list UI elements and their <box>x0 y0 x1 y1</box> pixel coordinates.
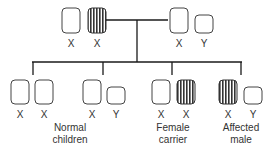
caption-line: carrier <box>143 134 203 146</box>
mother-x-normal <box>62 8 80 33</box>
child-daughter-normal <box>11 80 53 104</box>
child-son-normal <box>83 80 125 104</box>
child-daughter-carrier <box>152 80 195 104</box>
caption-line: children <box>40 134 100 146</box>
caption-female-carrier: Female carrier <box>143 122 203 146</box>
chromosome-label: X <box>177 109 195 120</box>
chromosome-label: Y <box>244 109 262 120</box>
caption-line: Affected <box>211 122 270 134</box>
father-chromosomes <box>170 8 213 33</box>
mother-x-affected <box>88 8 106 33</box>
caption-affected-male: Affected male <box>211 122 270 146</box>
caption-line: Female <box>143 122 203 134</box>
caption-line: Normal <box>40 122 100 134</box>
chromosome-label: X <box>83 109 101 120</box>
chromosome-label: Y <box>107 109 125 120</box>
chromosome-label: X <box>62 38 80 49</box>
chromosome-label: Y <box>195 38 213 49</box>
father-x <box>170 8 188 33</box>
caption-normal-children: Normal children <box>40 122 100 146</box>
chromosome-label: X <box>88 38 106 49</box>
chromosome-label: X <box>219 109 237 120</box>
child-son-affected <box>219 80 262 104</box>
father-y <box>195 15 213 33</box>
mother-chromosomes <box>62 8 106 33</box>
chromosome-label: X <box>152 109 170 120</box>
chromosome-label: X <box>11 109 29 120</box>
chromosome-label: X <box>170 38 188 49</box>
chromosome-label: X <box>35 109 53 120</box>
caption-line: male <box>211 134 270 146</box>
